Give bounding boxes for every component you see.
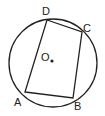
vertex-label-b: B [74,100,81,112]
center-dot [50,59,53,62]
vertex-label-a: A [14,96,22,108]
quadrilateral-abcd [25,20,82,98]
geometry-figure: A B C D O [0,0,105,116]
center-label-o: O [41,51,50,63]
vertex-label-d: D [42,5,50,17]
circle-diagram: A B C D O [0,0,105,116]
vertex-label-c: C [83,22,91,34]
